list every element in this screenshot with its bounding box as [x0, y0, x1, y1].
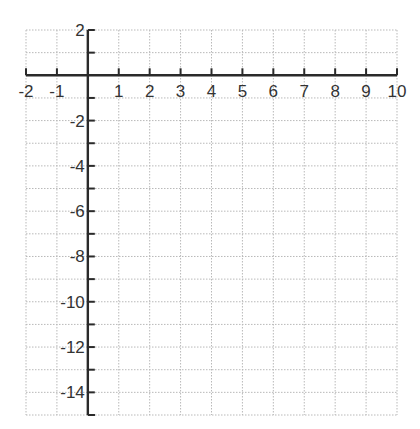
y-tick-label: -6	[70, 202, 85, 221]
x-tick-label: 2	[145, 82, 154, 101]
y-tick-label: -4	[70, 157, 85, 176]
x-tick-label: 4	[207, 82, 216, 101]
x-tick-label: 5	[238, 82, 247, 101]
y-tick-label: -14	[60, 383, 85, 402]
x-tick-label: 10	[388, 82, 407, 101]
x-tick-label: 8	[330, 82, 339, 101]
coordinate-grid: -2-1123456789102-2-4-6-8-10-12-14	[0, 0, 420, 429]
x-tick-label: 7	[300, 82, 309, 101]
x-tick-label: 3	[176, 82, 185, 101]
x-tick-label: -1	[49, 82, 64, 101]
y-tick-label: -2	[70, 112, 85, 131]
x-tick-label: 1	[114, 82, 123, 101]
y-tick-label: -10	[60, 293, 85, 312]
y-tick-label: -8	[70, 247, 85, 266]
x-tick-label: 6	[269, 82, 278, 101]
y-tick-label: 2	[75, 21, 84, 40]
y-tick-label: -12	[60, 338, 85, 357]
x-tick-label: -2	[18, 82, 33, 101]
x-tick-label: 9	[361, 82, 370, 101]
